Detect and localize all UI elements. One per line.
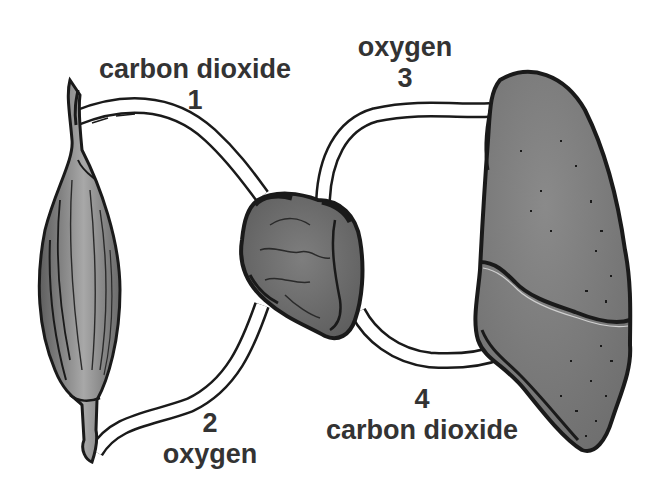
label-4-number: 4 bbox=[322, 386, 522, 413]
label-2-gas: oxygen bbox=[145, 441, 275, 468]
label-group-2: 2 oxygen bbox=[145, 410, 275, 468]
label-1-number: 1 bbox=[95, 87, 295, 114]
circulation-diagram: carbon dioxide 1 oxygen 3 2 oxygen 4 car… bbox=[0, 0, 667, 494]
vessel-3 bbox=[323, 109, 490, 200]
label-3-number: 3 bbox=[340, 65, 470, 92]
label-group-4: 4 carbon dioxide bbox=[322, 386, 522, 444]
label-3-gas: oxygen bbox=[340, 34, 470, 61]
label-group-3: oxygen 3 bbox=[340, 34, 470, 92]
vessel-1 bbox=[76, 105, 262, 196]
label-4-gas: carbon dioxide bbox=[322, 417, 522, 444]
label-1-gas: carbon dioxide bbox=[95, 56, 295, 83]
label-2-number: 2 bbox=[145, 410, 275, 437]
muscle-icon bbox=[39, 80, 120, 462]
label-group-1: carbon dioxide 1 bbox=[95, 56, 295, 114]
